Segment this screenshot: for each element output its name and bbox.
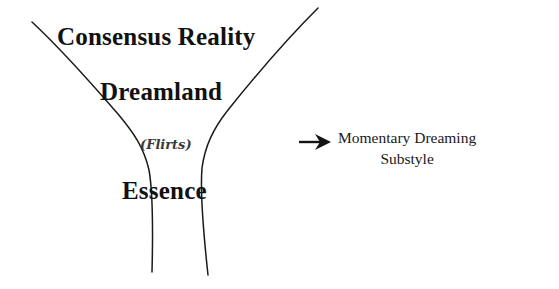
level-label-dreamland: Dreamland (100, 79, 222, 104)
right-arrow-icon (298, 131, 334, 153)
level-label-consensus-reality: Consensus Reality (57, 24, 256, 49)
level-label-flirts: (Flirts) (140, 138, 192, 151)
level-label-essence: Essence (122, 178, 207, 203)
substyle-annotation: Momentary Dreaming Substyle (298, 128, 476, 170)
substyle-text-block: Momentary Dreaming Substyle (338, 128, 476, 170)
substyle-line-1: Momentary Dreaming (338, 128, 476, 149)
diagram-canvas: Consensus Reality Dreamland (Flirts) Ess… (0, 0, 559, 289)
funnel-left-curve (32, 22, 153, 272)
substyle-line-2: Substyle (338, 149, 476, 170)
